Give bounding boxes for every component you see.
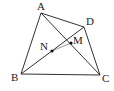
label-m: M xyxy=(73,34,83,46)
point-n xyxy=(50,49,53,52)
label-c: C xyxy=(102,72,109,84)
segment-bc xyxy=(21,74,100,75)
label-d: D xyxy=(86,15,94,27)
label-a: A xyxy=(37,0,45,12)
segment-cd xyxy=(84,27,100,75)
geometry-diagram: A B C D M N xyxy=(0,0,114,91)
label-n: N xyxy=(40,40,48,52)
segment-ab xyxy=(21,13,41,74)
label-b: B xyxy=(11,71,18,83)
